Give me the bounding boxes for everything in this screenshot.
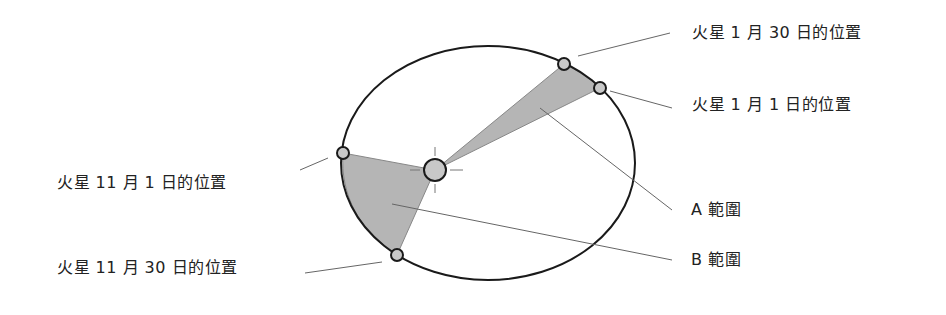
- sun-icon: [424, 159, 446, 181]
- label-mars-jan1: 火星 1 月 1 日的位置: [692, 96, 851, 114]
- label-mars-nov1: 火星 11 月 1 日的位置: [57, 174, 227, 192]
- mars-nov1-marker: [337, 147, 349, 159]
- mars-jan30-marker: [558, 58, 570, 70]
- label-mars-nov30: 火星 11 月 30 日的位置: [57, 259, 238, 277]
- mars-nov30-marker: [391, 249, 403, 261]
- label-area-a: A 範圍: [691, 201, 741, 219]
- area-a-sector: [435, 64, 600, 170]
- mars-jan1-marker: [594, 82, 606, 94]
- leader-lines: [300, 33, 672, 273]
- label-area-b: B 範圍: [691, 251, 741, 269]
- area-b-sector: [343, 153, 435, 255]
- label-mars-jan30: 火星 1 月 30 日的位置: [692, 24, 862, 42]
